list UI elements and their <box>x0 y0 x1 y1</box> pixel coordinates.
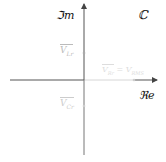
point-v-rr <box>133 79 136 82</box>
label-v-rr-vrms: VRr = VRMS <box>102 65 144 78</box>
label-v-cr: VCr <box>60 97 74 112</box>
label-v-lr: VLr <box>60 44 73 59</box>
complex-plane-diagram <box>0 0 166 162</box>
plane-label: ℂ <box>138 8 148 22</box>
point-v-cr <box>83 105 86 108</box>
imag-axis-label: ℑm <box>56 9 74 22</box>
real-axis-label: ℜe <box>139 89 155 102</box>
point-v-lr <box>83 52 86 55</box>
